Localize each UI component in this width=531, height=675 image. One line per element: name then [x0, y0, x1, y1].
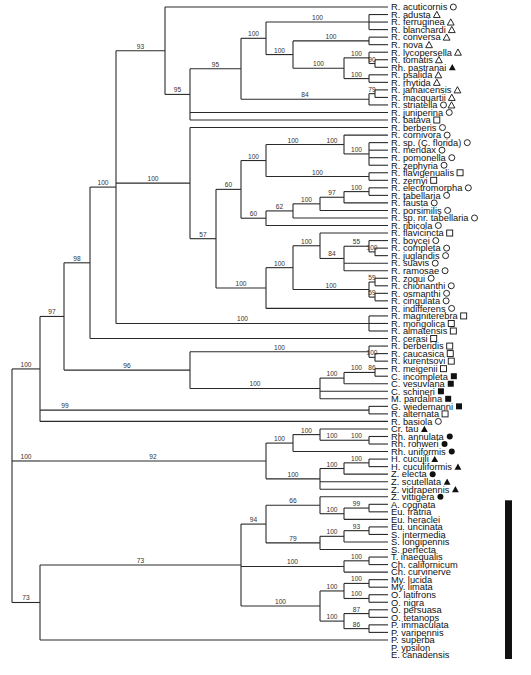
square-open-marker-icon — [457, 170, 463, 176]
outgroup-bar — [505, 500, 512, 659]
square-open-marker-icon — [447, 343, 453, 349]
bootstrap-value: 100 — [248, 153, 259, 160]
bootstrap-value: 100 — [326, 432, 337, 439]
bootstrap-value: 86 — [368, 364, 376, 371]
circle-open-marker-icon — [449, 155, 455, 161]
bootstrap-value: 59 — [368, 289, 376, 296]
bootstrap-value: 100 — [301, 196, 312, 203]
bootstrap-value: 79 — [368, 86, 376, 93]
circle-filled-marker-icon — [437, 494, 443, 500]
bootstrap-value: 97 — [328, 189, 336, 196]
bootstrap-value: 100 — [313, 60, 324, 67]
bootstrap-value: 87 — [353, 606, 361, 613]
bootstrap-value: 100 — [249, 380, 260, 387]
bootstrap-value: 100 — [326, 528, 337, 535]
circle-open-marker-icon — [464, 140, 470, 146]
bootstrap-value: 93 — [137, 43, 145, 50]
bootstrap-value: 100 — [287, 471, 298, 478]
bootstrap-value: 100 — [326, 370, 337, 377]
square-open-marker-icon — [461, 313, 467, 319]
circle-open-marker-icon — [465, 185, 471, 191]
bootstrap-value: 84 — [328, 250, 336, 257]
circle-open-marker-icon — [472, 215, 478, 221]
bootstrap-value: 73 — [22, 594, 30, 601]
bootstrap-value: 73 — [137, 557, 145, 564]
square-filled-marker-icon — [456, 403, 462, 409]
bootstrap-value: 100 — [351, 553, 362, 560]
bootstrap-value: 100 — [235, 280, 246, 287]
triangle-open-marker-icon — [447, 19, 454, 25]
bootstrap-value: 86 — [353, 621, 361, 628]
circle-open-marker-icon — [443, 253, 449, 259]
bootstrap-value: 100 — [97, 179, 108, 186]
bootstrap-value: 100 — [351, 432, 362, 439]
circle-open-marker-icon — [448, 283, 454, 289]
triangle-filled-marker-icon — [449, 64, 456, 70]
bootstrap-value: 98 — [73, 255, 81, 262]
bootstrap-value: 100 — [274, 435, 285, 442]
bootstrap-value: 79 — [289, 535, 297, 542]
taxon-labels: R. acuticornisR. adustaR. ferrugineaR. b… — [391, 2, 478, 660]
circle-open-marker-icon — [444, 245, 450, 251]
circle-open-marker-icon — [444, 290, 450, 296]
bootstrap-value: 100 — [351, 364, 362, 371]
bootstrap-value: 100 — [274, 344, 285, 351]
square-open-marker-icon — [442, 411, 448, 417]
bootstrap-value: 90 — [368, 56, 376, 63]
bootstrap-value: 100 — [351, 184, 362, 191]
bootstrap-value: 100 — [351, 590, 362, 597]
bootstrap-value: 60 — [225, 181, 233, 188]
bootstrap-value: 55 — [353, 238, 361, 245]
bootstrap-value: 100 — [326, 461, 337, 468]
triangle-filled-marker-icon — [455, 463, 462, 469]
bootstrap-value: 99 — [353, 500, 361, 507]
tree-branches — [12, 7, 388, 640]
bootstrap-value: 100 — [366, 349, 377, 356]
circle-filled-marker-icon — [447, 433, 453, 439]
bootstrap-value: 100 — [326, 583, 337, 590]
bootstrap-value: 100 — [312, 14, 323, 21]
square-open-marker-icon — [450, 328, 456, 334]
bootstrap-value: 100 — [326, 613, 337, 620]
bootstrap-value: 59 — [368, 274, 376, 281]
circle-open-marker-icon — [446, 109, 452, 115]
bootstrap-value: 100 — [274, 260, 285, 267]
bootstrap-value: 100 — [20, 361, 31, 368]
bootstrap-value: 100 — [275, 598, 286, 605]
bootstrap-value: 57 — [199, 231, 207, 238]
square-filled-marker-icon — [451, 373, 457, 379]
support-values: 1009798100939595100100100100100100901008… — [20, 14, 377, 628]
circle-filled-marker-icon — [449, 449, 455, 455]
bootstrap-value: 100 — [237, 315, 248, 322]
triangle-open-marker-icon — [455, 49, 462, 55]
bootstrap-value: 95 — [212, 61, 220, 68]
circle-open-marker-icon — [450, 4, 456, 10]
taxon-label: E. canadensis — [391, 650, 450, 660]
bootstrap-value: 100 — [301, 238, 312, 245]
triangle-filled-marker-icon — [452, 486, 459, 492]
phylogenetic-tree: 1009798100939595100100100100100100901008… — [0, 0, 531, 675]
bootstrap-value: 96 — [123, 362, 131, 369]
bootstrap-value: 95 — [174, 86, 182, 93]
bootstrap-value: 100 — [325, 33, 336, 40]
bootstrap-value: 97 — [48, 308, 56, 315]
bootstrap-value: 100 — [326, 506, 337, 513]
bootstrap-value: 100 — [20, 453, 31, 460]
bootstrap-value: 100 — [301, 427, 312, 434]
bootstrap-value: 100 — [326, 137, 337, 144]
bootstrap-value: 100 — [274, 47, 285, 54]
triangle-open-marker-icon — [448, 102, 455, 108]
square-open-marker-icon — [448, 358, 454, 364]
bootstrap-value: 100 — [351, 146, 362, 153]
bootstrap-value: 100 — [287, 558, 298, 565]
bootstrap-value: 100 — [312, 169, 323, 176]
bootstrap-value: 99 — [61, 402, 69, 409]
circle-open-marker-icon — [444, 192, 450, 198]
bootstrap-value: 66 — [289, 497, 297, 504]
square-filled-marker-icon — [448, 381, 454, 387]
bootstrap-value: 93 — [353, 523, 361, 530]
bootstrap-value: 100 — [351, 71, 362, 78]
square-open-marker-icon — [448, 320, 454, 326]
bootstrap-value: 94 — [250, 516, 258, 523]
triangle-open-marker-icon — [448, 26, 455, 32]
